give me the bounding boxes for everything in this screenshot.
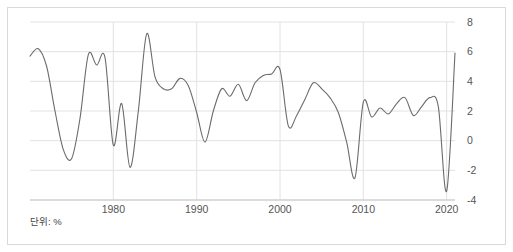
chart-figure: 86420-2-4 19801990200020102020 단위: % xyxy=(0,0,513,252)
y-tick-label: -2 xyxy=(467,164,476,176)
x-tick-label: 1980 xyxy=(102,203,126,215)
y-tick-labels: 86420-2-4 xyxy=(467,16,476,206)
line-chart-svg: 86420-2-4 19801990200020102020 xyxy=(0,0,513,252)
x-tick-label: 2000 xyxy=(268,203,292,215)
y-tick-label: 8 xyxy=(467,16,473,28)
y-tick-label: 2 xyxy=(467,105,473,117)
y-tick-label: 4 xyxy=(467,75,473,87)
y-tick-label: 6 xyxy=(467,45,473,57)
x-tick-label: 1990 xyxy=(185,203,209,215)
x-tick-labels: 19801990200020102020 xyxy=(102,203,459,215)
x-tick-label: 2020 xyxy=(435,203,459,215)
x-tick-label: 2010 xyxy=(352,203,376,215)
y-tick-label: 0 xyxy=(467,134,473,146)
plot-area: 86420-2-4 19801990200020102020 xyxy=(0,0,513,252)
y-tick-label: -4 xyxy=(467,194,476,206)
unit-label: 단위: % xyxy=(30,214,62,228)
data-line xyxy=(30,33,455,191)
